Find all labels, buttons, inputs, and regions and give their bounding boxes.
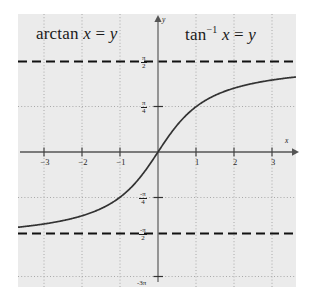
x-axis-label: x: [285, 137, 288, 145]
right-title-fn: tan: [185, 25, 206, 44]
yticklabel-neg-pi-over-2: -π 2: [139, 227, 147, 243]
xticklabel-minus3: −3: [37, 158, 53, 167]
left-title-arctan: arctan x = y: [36, 25, 117, 42]
right-title-tan-inverse: tan−1 x = y: [185, 25, 256, 43]
yticklabel-neg-pi-over-2-num: -π: [139, 227, 147, 234]
yticklabel-neg-pi-over-4-num: -π: [139, 191, 147, 198]
xticklabel-minus2: −2: [75, 158, 91, 167]
yticklabel-neg-3pi-num: -3π: [136, 280, 147, 287]
graph-svg: [0, 0, 314, 296]
xticklabel-2: 2: [228, 158, 242, 167]
right-title-equals: =: [234, 25, 244, 44]
right-title-var-x: x: [222, 25, 230, 44]
left-title-equals: =: [95, 24, 105, 43]
left-title-var-y: y: [110, 24, 118, 43]
y-axis-label: y: [162, 16, 165, 24]
figure-canvas: arctan x = y tan−1 x = y x y −3 −2 −1 1 …: [0, 0, 314, 296]
yticklabel-neg-3pi: -3π: [136, 272, 147, 288]
gridlines-group: [18, 14, 296, 287]
xticklabel-minus1: −1: [113, 158, 129, 167]
yticklabel-pi-over-2-den: 2: [141, 62, 147, 70]
yticklabel-pi-over-4: π 4: [141, 100, 147, 116]
x-axis-arrow: [292, 148, 299, 156]
yticklabel-pi-over-2-num: π: [141, 55, 147, 62]
yticklabel-pi-over-4-num: π: [141, 100, 147, 107]
left-title-fn: arctan: [36, 24, 79, 43]
yticklabel-pi-over-2: π 2: [141, 55, 147, 71]
right-title-exponent: −1: [206, 24, 217, 35]
y-axis-arrow: [154, 15, 161, 22]
right-title-var-y: y: [248, 25, 256, 44]
asymptotes-group: [18, 62, 296, 234]
yticklabel-neg-pi-over-2-den: 2: [139, 234, 147, 242]
yticklabel-neg-pi-over-4-den: 4: [139, 198, 147, 206]
xticklabel-1: 1: [190, 158, 204, 167]
left-title-var-x: x: [83, 24, 91, 43]
yticklabel-neg-pi-over-4: -π 4: [139, 191, 147, 207]
yticklabel-pi-over-4-den: 4: [141, 107, 147, 115]
xticklabel-3: 3: [266, 158, 280, 167]
